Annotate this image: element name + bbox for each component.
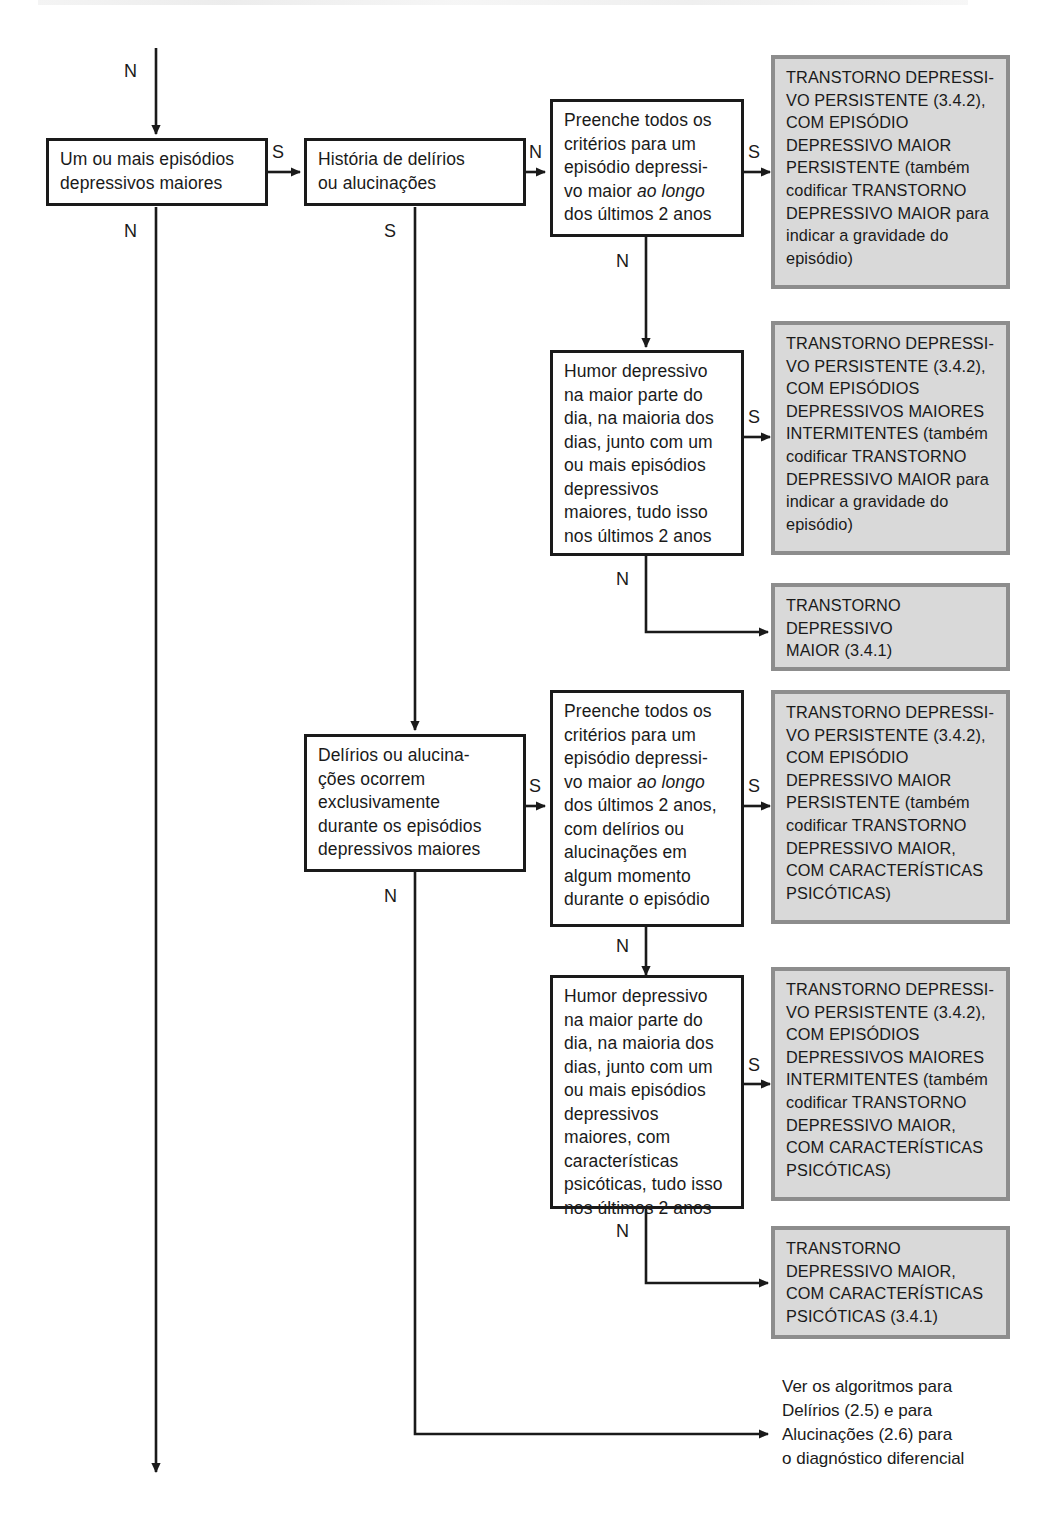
edge-label-humor2-n: N	[616, 1222, 629, 1240]
outcome-text: TRANSTORNO DEPRESSI- VO PERSISTENTE (3.4…	[786, 978, 997, 1181]
outcome-transtorno-depressivo-maior[interactable]: TRANSTORNO DEPRESSIVO MAIOR (3.4.1)	[771, 583, 1010, 671]
node-text: História de delírios ou alucinações	[318, 148, 514, 195]
edge-label-criterios1-s: S	[748, 143, 760, 161]
edge-label-criterios2-n: N	[616, 937, 629, 955]
node-text: Um ou mais episódios depressivos maiores	[60, 148, 256, 195]
outcome-text: TRANSTORNO DEPRESSI- VO PERSISTENTE (3.4…	[786, 701, 997, 904]
outcome-text: TRANSTORNO DEPRESSI- VO PERSISTENTE (3.4…	[786, 332, 997, 535]
node-text: Humor depressivo na maior parte do dia, …	[564, 985, 732, 1220]
node-text: Preenche todos os critérios para um epis…	[564, 109, 732, 227]
node-criterios-episodio-2anos-psicotico[interactable]: Preenche todos os critérios para um epis…	[550, 690, 744, 927]
outcome-tdm-com-caracteristicas-psicoticas[interactable]: TRANSTORNO DEPRESSIVO MAIOR, COM CARACTE…	[771, 1226, 1010, 1339]
node-text: Preenche todos os critérios para um epis…	[564, 700, 732, 912]
outcome-tdp-com-episodios-intermitentes-psicotico[interactable]: TRANSTORNO DEPRESSI- VO PERSISTENTE (3.4…	[771, 967, 1010, 1201]
outcome-text: TRANSTORNO DEPRESSIVO MAIOR, COM CARACTE…	[786, 1237, 997, 1327]
edge-label-historia-s: S	[384, 222, 396, 240]
edge-label-criterios2-s: S	[748, 777, 760, 795]
edge-label-criterios1-n: N	[616, 252, 629, 270]
node-text: Humor depressivo na maior parte do dia, …	[564, 360, 732, 548]
node-historia-de-delirios[interactable]: História de delírios ou alucinações	[304, 138, 526, 206]
note-text: Ver os algoritmos para Delírios (2.5) e …	[782, 1375, 1032, 1471]
edge-label-historia-n: N	[529, 143, 542, 161]
edge-label-delirios-n: N	[384, 887, 397, 905]
node-humor-depressivo-psicotico[interactable]: Humor depressivo na maior parte do dia, …	[550, 975, 744, 1209]
node-text: Delírios ou alucina- ções ocorrem exclus…	[318, 744, 514, 862]
outcome-tdp-com-episodios-intermitentes[interactable]: TRANSTORNO DEPRESSI- VO PERSISTENTE (3.4…	[771, 321, 1010, 555]
node-delirios-exclusivamente[interactable]: Delírios ou alucina- ções ocorrem exclus…	[304, 734, 526, 872]
edge-label-entry-n: N	[124, 62, 137, 80]
edge-humor2-tdmpsic	[646, 1209, 768, 1283]
edge-label-humor1-s: S	[748, 408, 760, 426]
node-criterios-episodio-2anos[interactable]: Preenche todos os critérios para um epis…	[550, 99, 744, 237]
node-text-italic: ao longo	[637, 772, 705, 792]
edge-label-humor1-n: N	[616, 570, 629, 588]
edge-label-episodios-s: S	[272, 143, 284, 161]
node-um-ou-mais-episodios[interactable]: Um ou mais episódios depressivos maiores	[46, 138, 268, 206]
edge-humor1-tdm	[646, 556, 768, 632]
flowchart-canvas: N S N N S S N S N S N S N S N Um ou mais…	[0, 0, 1056, 1533]
outcome-tdp-com-episodio-persistente[interactable]: TRANSTORNO DEPRESSI- VO PERSISTENTE (3.4…	[771, 55, 1010, 289]
outcome-text: TRANSTORNO DEPRESSIVO MAIOR (3.4.1)	[786, 594, 997, 662]
node-text-part-2: dos últimos 2 anos, com delírios ou aluc…	[564, 795, 717, 909]
node-text-italic: ao longo	[637, 181, 705, 201]
outcome-tdp-com-episodio-persistente-psicotico[interactable]: TRANSTORNO DEPRESSI- VO PERSISTENTE (3.4…	[771, 690, 1010, 924]
node-humor-depressivo-2anos[interactable]: Humor depressivo na maior parte do dia, …	[550, 350, 744, 556]
edge-label-delirios-s: S	[529, 777, 541, 795]
edge-label-episodios-n: N	[124, 222, 137, 240]
outcome-text: TRANSTORNO DEPRESSI- VO PERSISTENTE (3.4…	[786, 66, 997, 269]
edge-label-humor2-s: S	[748, 1056, 760, 1074]
node-text-part-2: dos últimos 2 anos	[564, 204, 712, 224]
note-ver-algoritmos: Ver os algoritmos para Delírios (2.5) e …	[782, 1375, 1032, 1485]
